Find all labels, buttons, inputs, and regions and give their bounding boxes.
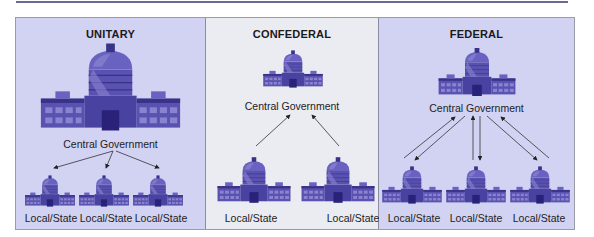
capitol-building-icon [509, 158, 571, 212]
capitol-building-icon [78, 170, 130, 212]
local-state-label: Local/State [126, 212, 196, 224]
capitol-building-icon [216, 148, 292, 212]
diagram-frame: UNITARY Central Government Local/State L… [15, 17, 575, 230]
top-rule [16, 1, 568, 3]
local-state-label: Local/State [504, 212, 574, 224]
local-state-label: Local/State [318, 212, 388, 224]
panel-federal: FEDERAL Central Government Local/State L… [379, 18, 574, 229]
panel-confederal: CONFEDERAL Central Government Local/Stat… [206, 18, 379, 229]
capitol-building-icon [300, 148, 376, 212]
capitol-building-icon [24, 170, 76, 212]
capitol-building-icon [132, 170, 184, 212]
local-state-label: Local/State [216, 212, 286, 224]
capitol-building-icon [445, 158, 507, 212]
local-state-label: Local/State [441, 212, 511, 224]
capitol-building-icon [381, 158, 443, 212]
local-state-label: Local/State [379, 212, 449, 224]
panel-unitary: UNITARY Central Government Local/State L… [16, 18, 206, 229]
